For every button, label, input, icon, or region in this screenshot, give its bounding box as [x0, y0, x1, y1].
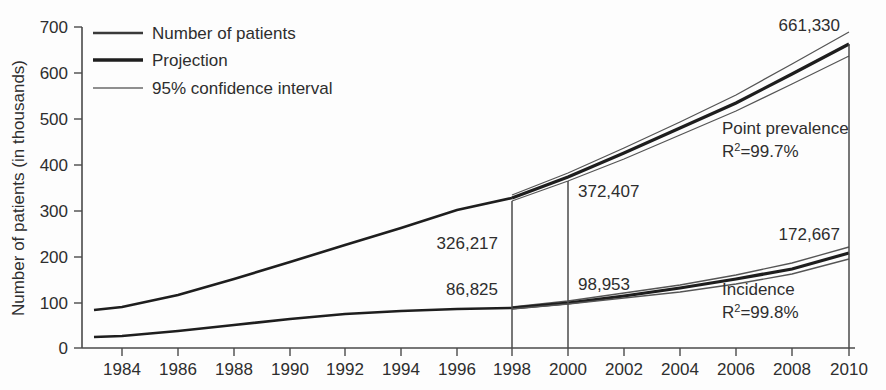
- legend-item-number-of-patients: Number of patients: [93, 24, 296, 43]
- line-chart: 700 600 500 400 300 200 100 0 1984 1986 …: [0, 0, 886, 390]
- incidence-ci-upper: [512, 247, 849, 307]
- legend-label-number-of-patients: Number of patients: [152, 24, 296, 43]
- value-label-incidence-2010: 172,667: [779, 225, 840, 244]
- x-tick-label: 1984: [103, 360, 141, 379]
- x-tick-label: 1994: [382, 360, 420, 379]
- x-tick-label: 2004: [661, 360, 699, 379]
- value-label-incidence-2000: 98,953: [578, 275, 630, 294]
- prevalence-ci-upper: [512, 32, 849, 195]
- x-tick-label: 1990: [271, 360, 309, 379]
- r2-prefix-incidence: R: [722, 303, 734, 322]
- y-axis-ticks: [74, 27, 82, 348]
- legend-item-projection: Projection: [93, 51, 228, 70]
- y-tick-label: 500: [40, 110, 68, 129]
- x-tick-label: 1992: [326, 360, 364, 379]
- y-tick-label: 700: [40, 18, 68, 37]
- incidence-historical-line: [94, 308, 512, 337]
- value-label-incidence-1998: 86,825: [446, 280, 498, 299]
- legend-item-confidence-interval: 95% confidence interval: [93, 79, 333, 98]
- value-label-prevalence-2010: 661,330: [779, 16, 840, 35]
- series-label-incidence: Incidence: [722, 280, 795, 299]
- chart-container: 700 600 500 400 300 200 100 0 1984 1986 …: [0, 0, 886, 390]
- y-tick-label: 200: [40, 248, 68, 267]
- y-tick-label: 0: [59, 339, 68, 358]
- x-tick-label: 1986: [159, 360, 197, 379]
- x-tick-label: 2002: [605, 360, 643, 379]
- value-label-prevalence-2000: 372,407: [578, 182, 639, 201]
- x-tick-label: 2008: [773, 360, 811, 379]
- y-tick-label: 300: [40, 202, 68, 221]
- legend-label-confidence-interval: 95% confidence interval: [152, 79, 333, 98]
- y-tick-label: 600: [40, 64, 68, 83]
- x-tick-label: 1988: [215, 360, 253, 379]
- x-axis-ticks: [122, 348, 849, 356]
- y-tick-labels: 700 600 500 400 300 200 100 0: [40, 18, 68, 358]
- x-tick-label: 2010: [830, 360, 868, 379]
- y-tick-label: 400: [40, 156, 68, 175]
- x-tick-label: 1996: [438, 360, 476, 379]
- y-axis-title: Number of patients (in thousands): [9, 60, 28, 316]
- value-label-prevalence-1998: 326,217: [437, 234, 498, 253]
- legend-label-projection: Projection: [152, 51, 228, 70]
- y-tick-label: 100: [40, 294, 68, 313]
- x-tick-label: 1998: [493, 360, 531, 379]
- x-tick-label: 2006: [717, 360, 755, 379]
- chart-legend: Number of patients Projection 95% confid…: [93, 24, 333, 98]
- series-label-incidence-r2: R2=99.8%: [722, 302, 799, 322]
- x-tick-labels: 1984 1986 1988 1990 1992 1994 1996 1998 …: [103, 360, 868, 379]
- series-label-prevalence: Point prevalence: [722, 119, 849, 138]
- x-tick-label: 2000: [549, 360, 587, 379]
- r2-rest-incidence: =99.8%: [740, 303, 798, 322]
- series-label-prevalence-r2: R2=99.7%: [722, 141, 799, 161]
- r2-prefix-prevalence: R: [722, 142, 734, 161]
- r2-rest-prevalence: =99.7%: [740, 142, 798, 161]
